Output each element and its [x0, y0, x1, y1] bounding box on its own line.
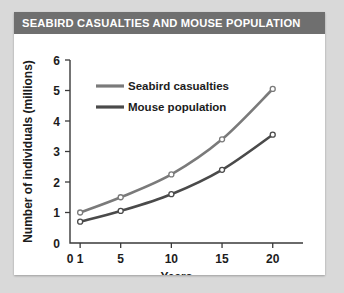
- page-title: SEABIRD CASUALTIES AND MOUSE POPULATION: [22, 17, 301, 29]
- data-point-marker: [118, 208, 123, 213]
- x-axis-tick-label: 5: [117, 252, 124, 266]
- data-point-marker: [270, 132, 275, 137]
- data-point-marker: [169, 172, 174, 177]
- legend-label-2: Mouse population: [128, 101, 226, 113]
- legend-label-1: Seabird casualties: [128, 80, 229, 92]
- x-axis-tick-label: 10: [165, 252, 179, 266]
- x-axis-tick-label: 15: [215, 252, 229, 266]
- y-axis-tick-label: 3: [53, 145, 60, 159]
- data-point-marker: [78, 219, 83, 224]
- y-axis-tick-label: 0: [53, 237, 60, 251]
- y-axis-title: Number of individuals (millions): [21, 60, 35, 243]
- data-point-marker: [270, 86, 275, 91]
- plot-area: 0123456015101520YearsNumber of individua…: [14, 34, 325, 275]
- x-axis-tick-label: 1: [77, 252, 84, 266]
- chart-figure-card: SEABIRD CASUALTIES AND MOUSE POPULATION …: [14, 12, 325, 275]
- x-axis-tick-label: 20: [266, 252, 280, 266]
- y-axis-tick-label: 1: [53, 206, 60, 220]
- data-point-marker: [118, 195, 123, 200]
- y-axis-tick-label: 5: [53, 84, 60, 98]
- data-point-marker: [78, 210, 83, 215]
- series-line-2: [80, 135, 273, 222]
- data-point-marker: [220, 167, 225, 172]
- x-axis-tick-label: 0: [67, 252, 74, 266]
- line-chart: 0123456015101520YearsNumber of individua…: [14, 34, 325, 275]
- data-point-marker: [220, 137, 225, 142]
- chart-title-bar: SEABIRD CASUALTIES AND MOUSE POPULATION: [14, 12, 325, 34]
- y-axis-tick-label: 2: [53, 176, 60, 190]
- data-point-marker: [169, 192, 174, 197]
- x-axis-title: Years: [160, 270, 192, 275]
- y-axis-tick-label: 6: [53, 54, 60, 68]
- y-axis-tick-label: 4: [53, 115, 60, 129]
